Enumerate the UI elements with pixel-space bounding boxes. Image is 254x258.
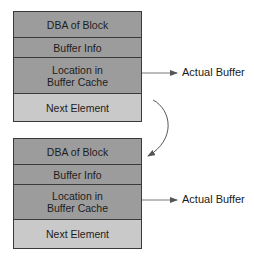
next-link-curved-arrow-icon (148, 100, 168, 156)
actual-buffer-label-1: Actual Buffer (182, 66, 245, 78)
connectors (0, 0, 254, 258)
actual-buffer-label-2: Actual Buffer (182, 193, 245, 205)
